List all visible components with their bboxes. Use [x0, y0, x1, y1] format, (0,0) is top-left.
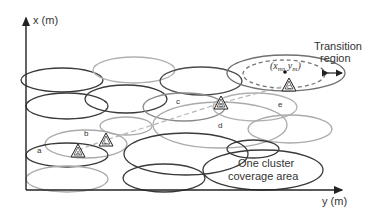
cluster-ellipse [160, 67, 242, 95]
node-C: C [282, 78, 296, 91]
cluster-ellipse [123, 164, 205, 192]
cluster-ellipse [85, 85, 167, 113]
cluster-coverage-label-line2: coverage area [228, 170, 299, 182]
cluster-ellipse [26, 93, 108, 119]
x-axis-label: x (m) [33, 14, 58, 26]
cluster-coverage-label-line1: One cluster [238, 157, 295, 169]
region-label-b: b [84, 129, 89, 138]
node-A-label: A [76, 150, 80, 156]
node-B-label: B [219, 102, 223, 108]
cluster-ellipse [21, 68, 103, 92]
transition-region-label-line1: Transition [314, 40, 362, 52]
center-point-dot [283, 70, 287, 74]
node-C-label: C [287, 84, 292, 90]
region-label-e: e [278, 100, 283, 109]
cluster-ellipse [248, 115, 332, 143]
transition-region-label-line2: region [320, 52, 351, 64]
y-axis-label: y (m) [322, 195, 347, 207]
node-L: L [99, 133, 113, 146]
cluster-ellipse [93, 57, 175, 83]
cluster-ellipse [227, 140, 279, 158]
node-A: A [71, 144, 85, 157]
region-label-d: d [218, 121, 222, 130]
region-label-c: c [176, 97, 180, 106]
region-label-a: a [37, 146, 42, 155]
cluster-coverage-diagram: x (m) y (m) Transition region (xm, ym) O… [0, 0, 376, 217]
cluster-ellipse [26, 166, 108, 192]
